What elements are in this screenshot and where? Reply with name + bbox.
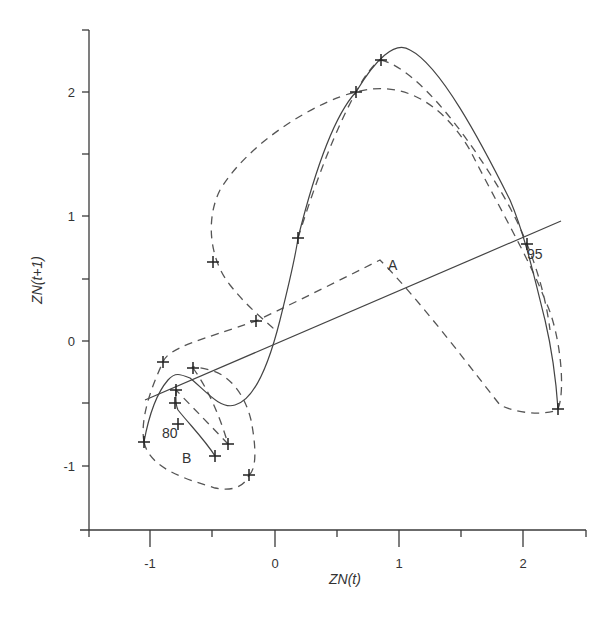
x-axis: -1 0 1 2 ZN(t) (80, 530, 586, 587)
y-axis: 2 1 0 -1 ZN(t+1) (29, 30, 89, 530)
y-axis-title: ZN(t+1) (29, 256, 45, 305)
y-tick-label: 1 (68, 209, 75, 224)
data-markers (138, 54, 564, 481)
x-tick-label: -1 (144, 556, 156, 571)
dashed-trajectory (143, 60, 561, 489)
annotation-95: 95 (527, 246, 543, 262)
x-axis-title: ZN(t) (328, 571, 361, 587)
annotation-b: B (182, 450, 191, 466)
phase-plot: 2 1 0 -1 ZN(t+1) -1 0 1 2 ZN(t) (0, 0, 612, 617)
x-tick-label: 0 (271, 556, 278, 571)
y-tick-label: -1 (63, 459, 75, 474)
x-tick-label: 1 (395, 556, 402, 571)
y-tick-label: 0 (68, 334, 75, 349)
solid-trajectory (144, 47, 558, 456)
x-tick-label: 2 (519, 556, 526, 571)
annotation-80: 80 (162, 425, 178, 441)
fitted-line (145, 221, 561, 400)
annotation-a: A (388, 257, 398, 273)
y-tick-label: 2 (68, 85, 75, 100)
